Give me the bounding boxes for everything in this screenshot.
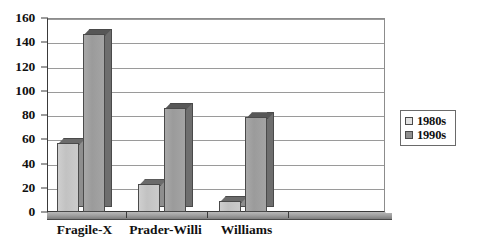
- y-axis-tick-mark: [41, 163, 48, 164]
- y-axis-tick-label: 60: [22, 131, 35, 147]
- legend-swatch-1980s: [405, 117, 413, 125]
- bar-williams-1980s: [219, 201, 241, 212]
- bar-side-face: [186, 103, 193, 207]
- legend-swatch-1990s: [405, 131, 413, 139]
- x-axis-label-prader-willi: Prader-Willi: [129, 222, 202, 238]
- bar-front-face: [245, 117, 267, 212]
- y-axis-tick-label: 40: [22, 156, 35, 172]
- y-axis-tick-label: 80: [22, 107, 35, 123]
- y-axis-tick-mark: [41, 212, 48, 213]
- legend-label-1980s: 1980s: [417, 114, 446, 129]
- y-axis-tick-mark: [41, 139, 48, 140]
- legend-label-1990s: 1990s: [417, 128, 446, 143]
- y-axis-tick-mark: [41, 90, 48, 91]
- y-axis-tick-mark: [41, 115, 48, 116]
- bar-williams-1990s: [245, 117, 267, 212]
- y-axis-tick-mark: [41, 66, 48, 67]
- x-axis-tick-mark: [207, 212, 208, 218]
- y-axis-tick-label: 0: [28, 204, 35, 220]
- y-axis-tick-mark: [41, 187, 48, 188]
- x-axis-label-fragile-x: Fragile-X: [57, 222, 112, 238]
- bar-side-face: [267, 112, 274, 207]
- bar-fragile-x-1980s: [57, 143, 79, 212]
- y-axis-tick-mark: [41, 42, 48, 43]
- x-axis-labels: Fragile-XPrader-WilliWilliams: [47, 222, 385, 244]
- x-axis-tick-mark: [288, 212, 289, 218]
- bar-prader-willi-1980s: [138, 184, 160, 212]
- y-axis-tick-label: 160: [15, 10, 35, 26]
- bar-series-container: [47, 18, 385, 212]
- y-axis-tick-label: 100: [15, 83, 35, 99]
- bar-chart: 020406080100120140160 Fragile-XPrader-Wi…: [0, 0, 479, 251]
- y-axis-tick-label: 120: [15, 59, 35, 75]
- bar-prader-willi-1990s: [164, 108, 186, 212]
- legend: 1980s 1990s: [400, 110, 456, 146]
- legend-item: 1990s: [405, 128, 451, 142]
- bar-front-face: [138, 184, 160, 212]
- chart-floor-corner: [385, 205, 394, 213]
- x-axis-label-williams: Williams: [221, 222, 273, 238]
- y-axis-tick-label: 140: [15, 34, 35, 50]
- bar-front-face: [164, 108, 186, 212]
- y-axis-tick-label: 20: [22, 180, 35, 196]
- bar-side-face: [105, 29, 112, 207]
- bar-front-face: [57, 143, 79, 212]
- y-axis: 020406080100120140160: [0, 0, 47, 251]
- legend-item: 1980s: [405, 114, 451, 128]
- y-axis-tick-mark: [41, 18, 48, 19]
- bar-fragile-x-1990s: [83, 34, 105, 212]
- bar-front-face: [219, 201, 241, 212]
- chart-floor: [47, 212, 392, 220]
- bar-front-face: [83, 34, 105, 212]
- x-axis-tick-mark: [126, 212, 127, 218]
